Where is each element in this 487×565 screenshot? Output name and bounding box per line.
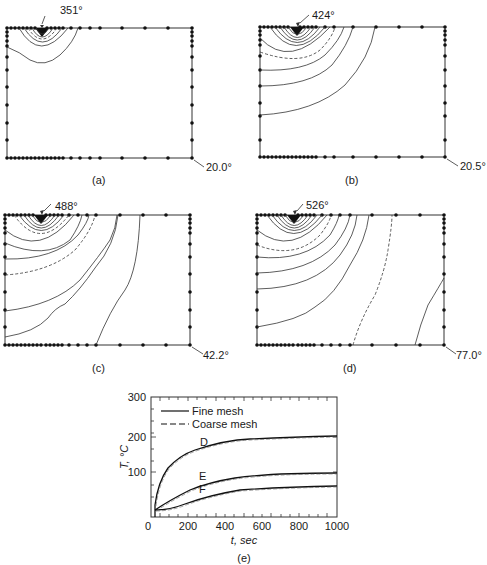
- axis-ticks: [151, 397, 337, 517]
- mesh-nodes: [5, 26, 194, 160]
- min-temp-label: 20.0°: [206, 161, 232, 173]
- y-tick-label: 100: [128, 466, 146, 478]
- figure: 351° 20.0° (a) 424° 20.5°: [0, 0, 487, 565]
- x-tick-label: 400: [216, 520, 234, 532]
- x-tick-label: 200: [179, 520, 197, 532]
- panel-caption: (a): [92, 174, 105, 186]
- panel-d: 526° 77.0° (d): [255, 199, 482, 374]
- curve-label-d: D: [200, 436, 208, 448]
- panel-b: 424° 20.5° (b): [258, 9, 486, 186]
- isotherms: [257, 215, 444, 345]
- min-temp-label: 20.5°: [460, 160, 486, 172]
- y-axis-label: T, °C: [118, 445, 130, 469]
- min-temp-label: 42.2°: [203, 349, 229, 361]
- x-tick-label: 0: [145, 520, 151, 532]
- curve-label-f: F: [199, 483, 206, 495]
- mesh-nodes: [258, 25, 447, 159]
- x-tick-label: 600: [253, 520, 271, 532]
- plot-e: 300 200 100 0 200 400 600 800 1000 T, °C…: [118, 391, 349, 564]
- panel-caption: (b): [345, 174, 358, 186]
- plot-caption: (e): [237, 552, 250, 564]
- x-tick-label: 800: [290, 520, 308, 532]
- curve-label-e: E: [199, 470, 206, 482]
- legend-label: Fine mesh: [192, 405, 243, 417]
- panel-c: 488° 42.2° (c): [3, 200, 229, 374]
- max-temp-label: 526°: [306, 199, 329, 211]
- max-temp-label: 351°: [60, 4, 83, 16]
- max-temp-label: 488°: [55, 200, 78, 212]
- panel-caption: (d): [343, 362, 356, 374]
- min-temp-label: 77.0°: [456, 349, 482, 361]
- panel-caption: (c): [92, 362, 105, 374]
- x-tick-label: 1000: [325, 520, 349, 532]
- legend: Fine mesh Coarse mesh: [161, 405, 257, 430]
- y-tick-label: 200: [128, 431, 146, 443]
- plot-frame: [151, 397, 337, 517]
- panel-a: 351° 20.0° (a): [5, 4, 232, 186]
- isotherms: [5, 215, 140, 345]
- x-axis-label: t, sec: [231, 534, 258, 546]
- mesh-nodes: [3, 213, 192, 347]
- isotherms: [260, 27, 375, 115]
- mesh-nodes: [255, 213, 446, 347]
- y-tick-label: 300: [128, 391, 146, 403]
- max-temp-label: 424°: [312, 9, 335, 21]
- legend-label: Coarse mesh: [192, 418, 257, 430]
- curves: [155, 436, 337, 517]
